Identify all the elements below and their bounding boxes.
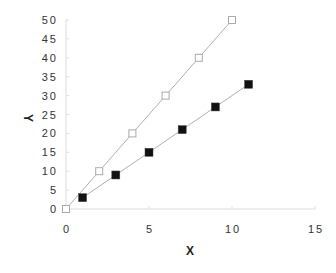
x-tick-label: 5: [146, 223, 154, 235]
y-tick-label: 40: [42, 52, 58, 64]
x-tick-label: 10: [225, 223, 241, 235]
x-tick-label: 15: [308, 223, 324, 235]
filled-square-marker: [112, 171, 120, 179]
y-tick-label: 30: [42, 90, 58, 102]
y-axis-label: Y: [21, 114, 35, 122]
y-tick-label: 50: [42, 14, 58, 26]
y-tick-label: 15: [42, 146, 58, 158]
open-square-marker: [129, 130, 136, 137]
filled-square-marker: [211, 103, 219, 111]
x-tick-label: 0: [63, 223, 71, 235]
series-open-squares: [63, 17, 236, 213]
axes: [66, 20, 315, 209]
y-tick-label: 25: [42, 109, 58, 121]
data-series: [63, 17, 253, 213]
x-axis-label: X: [186, 244, 194, 258]
series-line: [66, 20, 232, 209]
scatter-chart: 05101520253035404550 051015 Y X: [0, 0, 336, 273]
open-square-marker: [63, 206, 70, 213]
y-tick-label: 5: [50, 184, 58, 196]
open-square-marker: [229, 17, 236, 24]
y-tick-label: 0: [50, 203, 58, 215]
y-tick-label: 20: [42, 127, 58, 139]
filled-square-marker: [79, 194, 87, 202]
filled-square-marker: [245, 80, 253, 88]
open-square-marker: [195, 54, 202, 61]
series-line: [83, 84, 249, 197]
y-tick-label: 10: [42, 165, 58, 177]
filled-square-marker: [145, 148, 153, 156]
x-axis-ticks: 051015: [63, 206, 324, 235]
y-tick-label: 35: [42, 71, 58, 83]
open-square-marker: [96, 168, 103, 175]
y-tick-label: 45: [42, 33, 58, 45]
y-axis-ticks: 05101520253035404550: [42, 14, 69, 215]
open-square-marker: [162, 92, 169, 99]
filled-square-marker: [178, 126, 186, 134]
